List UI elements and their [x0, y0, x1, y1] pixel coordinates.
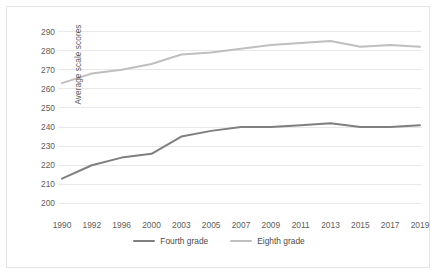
line-fourth-grade: [62, 123, 420, 178]
legend-line-icon: [133, 240, 155, 242]
series-lines: [62, 22, 420, 213]
y-tick-label: 230: [41, 141, 55, 151]
line-eighth-grade: [62, 41, 420, 83]
legend-item-eighth-grade[interactable]: Eighth grade: [230, 236, 305, 246]
y-tick-label: 290: [41, 27, 55, 37]
y-tick-label: 210: [41, 179, 55, 189]
legend-item-fourth-grade[interactable]: Fourth grade: [133, 236, 208, 246]
x-tick-label: 2011: [292, 220, 310, 230]
x-tick-label: 2015: [351, 220, 370, 230]
legend-label: Fourth grade: [160, 236, 208, 246]
y-tick-label: 260: [41, 84, 55, 94]
y-tick-label: 200: [41, 198, 55, 208]
x-tick-label: 2013: [321, 220, 340, 230]
x-tick-label: 2003: [172, 220, 191, 230]
x-tick-label: 2007: [232, 220, 251, 230]
y-tick-label: 220: [41, 160, 55, 170]
legend-line-icon: [230, 240, 252, 242]
x-tick-label: 1996: [112, 220, 131, 230]
y-axis-title: Average scale scores: [74, 5, 83, 125]
y-tick-label: 250: [41, 103, 55, 113]
chart-container: 200210220230240250260270280290 199019921…: [0, 0, 438, 277]
plot-area: 200210220230240250260270280290 199019921…: [62, 22, 420, 213]
x-tick-label: 2017: [381, 220, 400, 230]
x-tick-label: 1992: [83, 220, 102, 230]
x-tick-label: 2005: [202, 220, 221, 230]
y-tick-label: 280: [41, 46, 55, 56]
chart-legend: Fourth gradeEighth grade: [0, 236, 438, 246]
x-tick-label: 2000: [142, 220, 161, 230]
y-tick-label: 270: [41, 65, 55, 75]
x-tick-label: 2019: [411, 220, 430, 230]
x-tick-label: 1990: [53, 220, 72, 230]
legend-label: Eighth grade: [257, 236, 305, 246]
y-tick-label: 240: [41, 122, 55, 132]
x-tick-label: 2009: [262, 220, 281, 230]
